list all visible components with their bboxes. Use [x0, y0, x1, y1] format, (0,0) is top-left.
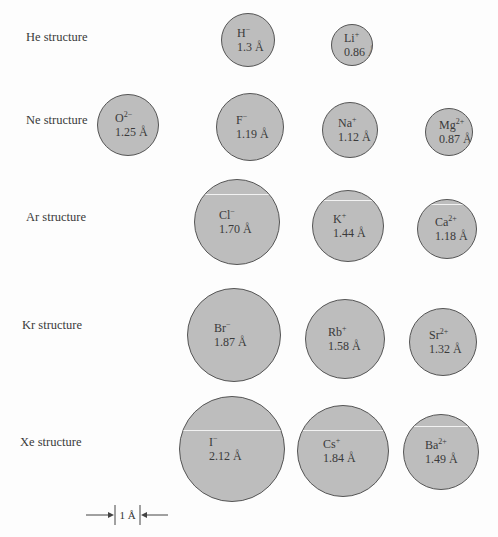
row-label: Ar structure — [26, 210, 86, 225]
ion-symbol: Ca2+ — [435, 215, 477, 229]
ion-symbol: Li+ — [344, 31, 373, 45]
ion-symbol: Na+ — [338, 116, 378, 130]
ion-charge: + — [355, 30, 360, 39]
ion-element: H — [237, 26, 246, 40]
ion-symbol: F− — [236, 113, 284, 127]
ion-radius: 2.12 Å — [209, 449, 285, 463]
ion-radius: 0.86 Å — [344, 45, 373, 59]
ion-circle: F−1.19 Å — [216, 93, 284, 161]
row-label: Kr structure — [22, 318, 82, 333]
ion-circle: Li+0.86 Å — [331, 24, 373, 66]
ion-circle: Sr2+1.32 Å — [409, 308, 477, 376]
ion-charge: 2+ — [438, 437, 447, 446]
ion-charge: − — [226, 320, 231, 329]
ion-element: O — [115, 111, 124, 125]
row-label: Ne structure — [26, 113, 87, 128]
ion-charge: + — [342, 324, 347, 333]
ion-symbol: Sr2+ — [429, 328, 477, 342]
ion-circle: Ca2+1.18 Å — [417, 199, 477, 259]
ion-charge: − — [213, 434, 218, 443]
ion-element: F — [236, 113, 243, 127]
ion-circle: K+1.44 Å — [312, 190, 384, 262]
ion-radius: 1.19 Å — [236, 127, 284, 141]
ion-element: Ca — [435, 215, 448, 229]
ion-symbol: Rb+ — [328, 325, 385, 339]
ion-symbol: Cs+ — [323, 437, 389, 451]
ion-radius: 1.12 Å — [338, 130, 378, 144]
ion-element: Li — [344, 31, 355, 45]
ion-element: Cl — [219, 208, 230, 222]
ion-charge: − — [246, 25, 251, 34]
ion-circle: I−2.12 Å — [179, 396, 285, 502]
ion-circle: Na+1.12 Å — [322, 102, 378, 158]
ion-element: Sr — [429, 328, 440, 342]
ion-circle: Mg2+0.87 Å — [425, 108, 473, 156]
ion-circle: H−1.3 Å — [221, 13, 275, 67]
ion-element: K — [333, 212, 342, 226]
ion-circle: Rb+1.58 Å — [305, 299, 385, 379]
ion-radius: 1.84 Å — [323, 451, 389, 465]
ion-radius: 1.58 Å — [328, 339, 385, 353]
scale-label: 1 Å — [119, 509, 135, 521]
ion-symbol: Cl− — [219, 208, 280, 222]
ion-radius: 1.18 Å — [435, 229, 477, 243]
row-label: He structure — [26, 30, 87, 45]
ion-radius: 1.44 Å — [333, 226, 384, 240]
ion-circle: Ba2+1.49 Å — [403, 414, 479, 490]
ion-circle: Cl−1.70 Å — [194, 179, 280, 265]
ion-charge: 2+ — [448, 214, 457, 223]
ion-circle: Cs+1.84 Å — [297, 405, 389, 497]
ion-radius: 0.87 Å — [439, 132, 473, 146]
ion-charge: 2+ — [440, 327, 449, 336]
ion-radius: 1.87 Å — [214, 335, 281, 349]
ion-charge: − — [230, 207, 235, 216]
ion-element: Cs — [323, 437, 336, 451]
ion-symbol: I− — [209, 435, 285, 449]
ion-charge: + — [342, 211, 347, 220]
scale-bar: 1 Å — [86, 505, 176, 527]
ion-radius: 1.25 Å — [115, 125, 159, 139]
ion-charge: 2− — [124, 110, 133, 119]
ion-radius: 1.3 Å — [237, 40, 275, 54]
ion-symbol: Ba2+ — [425, 438, 479, 452]
ion-charge: + — [336, 436, 341, 445]
ion-symbol: K+ — [333, 212, 384, 226]
ion-radius: 1.49 Å — [425, 452, 479, 466]
ion-charge: − — [243, 112, 248, 121]
ion-element: Rb — [328, 325, 342, 339]
ion-charge: 2+ — [456, 117, 465, 126]
ion-charge: + — [352, 115, 357, 124]
ion-circle: O2−1.25 Å — [97, 94, 159, 156]
ion-element: Na — [338, 116, 352, 130]
ionic-radii-diagram: He structureNe structureAr structureKr s… — [0, 0, 498, 537]
ion-symbol: Br− — [214, 321, 281, 335]
row-label: Xe structure — [20, 435, 81, 450]
ion-element: Br — [214, 321, 226, 335]
ion-circle: Br−1.87 Å — [187, 288, 281, 382]
ion-element: Ba — [425, 438, 438, 452]
ion-symbol: Mg2+ — [439, 118, 473, 132]
ion-element: Mg — [439, 118, 456, 132]
ion-radius: 1.32 Å — [429, 342, 477, 356]
ion-radius: 1.70 Å — [219, 222, 280, 236]
ion-symbol: H− — [237, 26, 275, 40]
ion-symbol: O2− — [115, 111, 159, 125]
